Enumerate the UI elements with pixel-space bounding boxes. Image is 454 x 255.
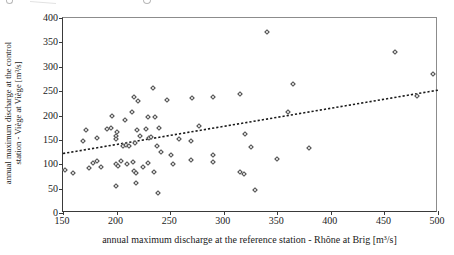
plot-canvas [63, 18, 436, 211]
x-tick-label: 250 [162, 215, 177, 226]
y-tick-mark [59, 189, 63, 190]
cropped-text-fragment [6, 0, 13, 4]
y-tick-label: 100 [28, 158, 58, 169]
y-tick-label: 300 [28, 60, 58, 71]
x-tick-label: 150 [55, 215, 70, 226]
y-axis-label-line1: annual maximum discharge at the control [3, 8, 13, 218]
trend-line [63, 18, 438, 213]
y-tick-mark [59, 140, 63, 141]
y-tick-label: 400 [28, 12, 58, 23]
y-tick-label: 350 [28, 36, 58, 47]
y-tick-label: 50 [28, 182, 58, 193]
x-tick-label: 200 [108, 215, 123, 226]
y-tick-label: 0 [28, 207, 58, 218]
y-tick-label: 250 [28, 85, 58, 96]
y-axis-label-line2: station - Viège at Viège [m³/s] [13, 8, 23, 218]
y-tick-mark [59, 91, 63, 92]
scatter-figure: annual maximum discharge at the control … [0, 0, 454, 255]
x-tick-label: 450 [376, 215, 391, 226]
y-tick-mark [59, 116, 63, 117]
plot-area [62, 17, 437, 212]
x-tick-label: 400 [322, 215, 337, 226]
cropped-text-fragment [30, 1, 56, 4]
y-tick-mark [59, 164, 63, 165]
y-tick-label: 200 [28, 109, 58, 120]
y-axis-label: annual maximum discharge at the control … [3, 8, 23, 218]
y-tick-mark [59, 18, 63, 19]
x-tick-label: 500 [430, 215, 445, 226]
cropped-text-fragment [143, 0, 151, 4]
x-tick-label: 300 [215, 215, 230, 226]
x-axis-label: annual maximum discharge at the referenc… [62, 234, 437, 245]
y-tick-mark [59, 42, 63, 43]
x-tick-label: 350 [269, 215, 284, 226]
y-tick-label: 150 [28, 133, 58, 144]
y-tick-mark [59, 67, 63, 68]
